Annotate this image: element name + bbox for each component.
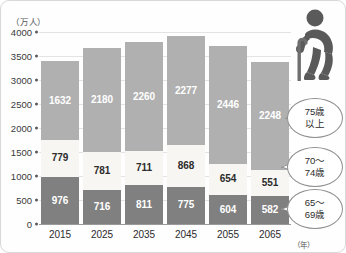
y-axis-tick-dot-500	[35, 199, 38, 202]
bar-value-age-70-74-2025: 781	[94, 166, 111, 176]
bar-segment-age-65-69-2045: 775	[167, 187, 205, 224]
x-axis-tick-2065: 2065	[259, 229, 281, 240]
bar-group-2025: 71678121802025	[83, 32, 121, 224]
chart-container: （万人） 05001000150020002500300035004000 97…	[0, 0, 346, 253]
bar-segment-age-70-74-2025: 781	[83, 152, 121, 189]
y-axis-tick-dot-2000	[35, 127, 38, 130]
x-axis-unit-label: （年）	[293, 239, 314, 250]
bar-segment-age-70-74-2035: 711	[125, 151, 163, 185]
bar-segment-age-75-plus-2015: 1632	[41, 61, 79, 139]
y-axis-tick-dot-3500	[35, 55, 38, 58]
bar-group-2015: 97677916322015	[41, 32, 79, 224]
callout-age-70-74-line2: 74歳	[305, 167, 326, 179]
x-axis-tick-2025: 2025	[91, 229, 113, 240]
bar-segment-age-70-74-2015: 779	[41, 140, 79, 177]
bar-segment-age-65-69-2015: 976	[41, 177, 79, 224]
bar-group-2065: 58255122482065	[251, 32, 289, 224]
bar-segment-age-70-74-2055: 654	[209, 164, 247, 195]
bar-value-age-75-plus-2055: 2446	[217, 100, 239, 110]
y-axis-tick-dot-2500	[35, 103, 38, 106]
bar-value-age-75-plus-2045: 2277	[175, 86, 197, 96]
bar-value-age-70-74-2055: 654	[220, 174, 237, 184]
bar-value-age-70-74-2065: 551	[262, 178, 279, 188]
y-axis-tick-dot-1500	[35, 151, 38, 154]
bar-segment-age-65-69-2055: 604	[209, 195, 247, 224]
bar-group-2035: 81171122602035	[125, 32, 163, 224]
x-axis-tick-2015: 2015	[49, 229, 71, 240]
y-axis-unit-label: （万人）	[11, 15, 46, 27]
bar-value-age-75-plus-2035: 2260	[133, 92, 155, 102]
bar-value-age-65-69-2065: 582	[262, 205, 279, 215]
bar-value-age-75-plus-2025: 2180	[91, 95, 113, 105]
bar-value-age-75-plus-2065: 2248	[259, 111, 281, 121]
callout-age-65-69-line2: 69歳	[305, 209, 326, 221]
bar-value-age-65-69-2055: 604	[220, 205, 237, 215]
x-axis-tick-2045: 2045	[175, 229, 197, 240]
bar-segment-age-75-plus-2045: 2277	[167, 36, 205, 145]
callout-age-75-plus-line2: 以上	[305, 118, 325, 130]
bar-segment-age-65-69-2035: 811	[125, 185, 163, 224]
bar-value-age-70-74-2045: 868	[178, 161, 195, 171]
plot-area: 05001000150020002500300035004000 9767791…	[39, 32, 291, 224]
bar-segment-age-75-plus-2065: 2248	[251, 62, 289, 170]
bar-value-age-75-plus-2015: 1632	[49, 96, 71, 106]
callout-age-70-74-line1: 70〜	[305, 155, 326, 167]
callout-age-65-69: 65〜 69歳	[287, 189, 343, 229]
bar-segment-age-70-74-2045: 868	[167, 145, 205, 187]
bar-value-age-70-74-2035: 711	[136, 163, 152, 173]
bar-segment-age-70-74-2065: 551	[251, 170, 289, 196]
y-axis-tick-dot-3000	[35, 79, 38, 82]
bar-value-age-70-74-2015: 779	[52, 153, 69, 163]
bar-value-age-65-69-2045: 775	[178, 200, 195, 210]
bar-value-age-65-69-2015: 976	[52, 196, 69, 206]
y-axis-tick-dot-0	[35, 223, 38, 226]
callout-age-75-plus: 75歳 以上	[287, 98, 343, 138]
bar-segment-age-65-69-2025: 716	[83, 190, 121, 224]
bar-value-age-65-69-2035: 811	[136, 200, 152, 210]
bar-segment-age-75-plus-2025: 2180	[83, 48, 121, 153]
y-axis-tick-dot-4000	[35, 31, 38, 34]
bar-value-age-65-69-2025: 716	[94, 202, 111, 212]
callout-age-75-plus-line1: 75歳	[305, 106, 326, 118]
bar-group-2055: 60465424462055	[209, 32, 247, 224]
bar-segment-age-75-plus-2035: 2260	[125, 42, 163, 150]
callout-age-70-74: 70〜 74歳	[287, 147, 343, 187]
x-axis-tick-2055: 2055	[217, 229, 239, 240]
gridline-0	[39, 224, 291, 225]
x-axis-tick-2035: 2035	[133, 229, 155, 240]
y-axis-tick-dot-1000	[35, 175, 38, 178]
bar-group-2045: 77586822772045	[167, 32, 205, 224]
callout-age-65-69-line1: 65〜	[305, 197, 326, 209]
elderly-person-with-cane-icon	[285, 7, 339, 85]
bar-segment-age-75-plus-2055: 2446	[209, 46, 247, 163]
